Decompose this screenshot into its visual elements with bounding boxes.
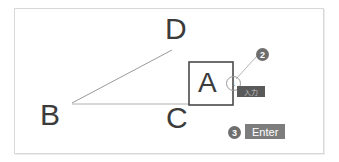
line-b-to-d xyxy=(72,50,172,103)
screenshot-root: D B C A 1 2 入力 3 Enter xyxy=(0,0,339,162)
input-chip-value: 入力 xyxy=(244,87,257,97)
square-label-a: A xyxy=(198,69,217,97)
enter-key-badge[interactable]: Enter xyxy=(245,124,285,139)
step-badge-2: 2 xyxy=(256,48,269,61)
vertex-label-b: B xyxy=(40,100,60,130)
vertex-label-d: D xyxy=(165,14,187,44)
callout-leader-line xyxy=(236,56,257,79)
vertex-label-c: C xyxy=(166,103,188,133)
step-badge-3: 3 xyxy=(228,126,241,139)
input-chip[interactable]: 入力 xyxy=(237,86,265,97)
